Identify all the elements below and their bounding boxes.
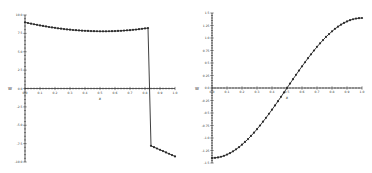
data-point xyxy=(271,109,273,111)
data-point xyxy=(126,29,128,31)
data-point xyxy=(147,27,149,29)
y-tick-label: -0.75 xyxy=(202,124,210,128)
data-point xyxy=(114,30,116,32)
data-point xyxy=(132,29,134,31)
y-tick-label: 1.25 xyxy=(203,24,210,28)
y-tick-label: -0.5 xyxy=(204,111,210,115)
data-point xyxy=(78,29,80,31)
data-point xyxy=(346,20,348,22)
y-tick-label: -2.5 xyxy=(17,105,23,109)
data-point xyxy=(48,26,50,28)
x-tick-label: 0.9 xyxy=(158,91,163,95)
data-point xyxy=(111,30,113,32)
data-point xyxy=(150,145,152,147)
data-point xyxy=(280,96,282,98)
data-point xyxy=(313,49,315,51)
x-tick-label: 1.0 xyxy=(360,90,365,94)
data-point xyxy=(129,29,131,31)
data-point xyxy=(220,156,222,158)
data-point xyxy=(229,152,231,154)
y-tick-label: 1.0 xyxy=(205,36,210,40)
data-point xyxy=(307,57,309,59)
x-axis-label: x xyxy=(286,95,289,100)
data-point xyxy=(334,28,336,30)
data-point xyxy=(352,18,354,20)
data-point xyxy=(138,28,140,30)
data-point xyxy=(120,30,122,32)
y-tick-label: -1.5 xyxy=(204,161,210,165)
data-point xyxy=(39,24,41,26)
data-point xyxy=(162,150,164,152)
y-tick-label: 7.5 xyxy=(18,31,23,35)
data-point xyxy=(144,27,146,29)
y-axis-label: W xyxy=(8,86,12,91)
data-point xyxy=(159,149,161,151)
data-point xyxy=(289,83,291,85)
data-point xyxy=(54,27,56,29)
y-tick-label: -7.5 xyxy=(17,142,23,146)
data-point xyxy=(135,28,137,30)
y-tick-label: 10.0 xyxy=(16,13,23,17)
data-point xyxy=(99,30,101,32)
data-point xyxy=(316,46,318,48)
data-point xyxy=(108,30,110,32)
data-point xyxy=(244,141,246,143)
data-point xyxy=(331,30,333,32)
data-point xyxy=(45,25,47,27)
data-point xyxy=(123,29,125,31)
y-tick-label: -1.0 xyxy=(204,136,210,140)
data-point xyxy=(30,23,32,25)
data-point xyxy=(253,132,255,134)
x-tick-label: 0.4 xyxy=(270,90,275,94)
data-point xyxy=(259,124,261,126)
data-point xyxy=(295,74,297,76)
y-tick-label: 0.0 xyxy=(205,86,210,90)
x-tick-label: 0.4 xyxy=(83,91,88,95)
y-tick-label: 0.0 xyxy=(18,87,23,91)
y-tick-label: 2.5 xyxy=(18,68,23,72)
data-point xyxy=(156,147,158,149)
x-tick-label: 0.0 xyxy=(210,90,215,94)
data-point xyxy=(72,29,74,31)
data-point xyxy=(105,30,107,32)
data-point xyxy=(51,26,53,28)
data-point xyxy=(174,155,176,157)
y-tick-label: 0.5 xyxy=(205,61,210,65)
data-point xyxy=(343,22,345,24)
y-tick-label: 0.25 xyxy=(203,74,210,78)
data-point xyxy=(57,27,59,29)
x-tick-label: 0.1 xyxy=(225,90,230,94)
data-point xyxy=(238,146,240,148)
data-point xyxy=(117,30,119,32)
x-tick-label: 0.6 xyxy=(113,91,118,95)
data-point xyxy=(87,30,89,32)
data-point xyxy=(81,30,83,32)
data-point xyxy=(96,30,98,32)
x-tick-label: 0.7 xyxy=(128,91,133,95)
data-point xyxy=(268,113,270,115)
x-tick-label: 0.8 xyxy=(330,90,335,94)
data-point xyxy=(310,53,312,55)
x-tick-label: 1.0 xyxy=(173,91,178,95)
data-point xyxy=(90,30,92,32)
data-point xyxy=(24,21,26,23)
y-tick-label: -1.25 xyxy=(202,149,210,153)
data-point xyxy=(241,144,243,146)
y-tick-label: -10.0 xyxy=(15,160,23,164)
x-tick-label: 0.7 xyxy=(315,90,320,94)
data-point xyxy=(75,29,77,31)
data-point xyxy=(42,25,44,27)
data-point xyxy=(286,87,288,89)
data-point xyxy=(235,148,237,150)
data-point xyxy=(325,36,327,38)
x-tick-label: 0.2 xyxy=(53,91,58,95)
data-point xyxy=(256,128,258,130)
data-point xyxy=(171,154,173,156)
data-point xyxy=(102,30,104,32)
data-point xyxy=(141,28,143,30)
y-tick-label: 1.5 xyxy=(205,11,210,15)
data-point xyxy=(93,30,95,32)
data-point xyxy=(322,39,324,41)
data-point xyxy=(165,151,167,153)
data-point xyxy=(214,157,216,159)
